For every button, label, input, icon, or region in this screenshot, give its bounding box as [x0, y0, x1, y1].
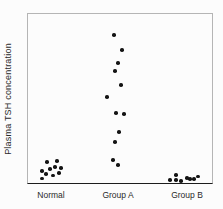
x-axis-labels: Normal Group A Group B [0, 190, 223, 202]
y-axis-label: Plasma TSH concentration [3, 43, 13, 155]
tsh-scatter-figure: Plasma TSH concentration Normal Group A … [0, 0, 223, 209]
y-axis: Plasma TSH concentration [1, 13, 14, 184]
plot-area [27, 13, 213, 184]
x-tick-label-group-a: Group A [102, 190, 133, 200]
x-tick-label-normal: Normal [37, 190, 64, 200]
x-tick-label-group-b: Group B [171, 190, 203, 200]
